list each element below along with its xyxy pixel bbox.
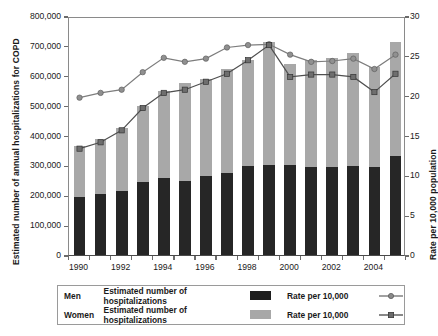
bar-segment-men-2002 bbox=[326, 167, 338, 255]
x-axis-label-2004: 2004 bbox=[364, 262, 383, 272]
bar-2000 bbox=[284, 64, 296, 255]
bar-segment-women-1996 bbox=[200, 79, 212, 175]
bar-2002 bbox=[326, 58, 338, 255]
circle-marker-icon bbox=[378, 291, 404, 301]
y-right-tick-10 bbox=[405, 176, 409, 177]
bar-2004 bbox=[369, 67, 381, 255]
y-left-label-700000: 700,000 bbox=[30, 41, 61, 51]
bar-1993 bbox=[137, 106, 149, 255]
y-left-tick-400000 bbox=[64, 136, 68, 137]
x-axis-label-2000: 2000 bbox=[280, 262, 299, 272]
x-tick-13 bbox=[342, 256, 343, 260]
bar-segment-men-2003 bbox=[347, 166, 359, 255]
plot-area bbox=[68, 17, 405, 256]
bar-segment-men-1996 bbox=[200, 176, 212, 255]
y-left-tick-700000 bbox=[64, 46, 68, 47]
y-left-tick-300000 bbox=[64, 166, 68, 167]
bar-group bbox=[69, 18, 404, 255]
bar-segment-men-1990 bbox=[74, 197, 86, 255]
legend-rate-label-women: Rate per 10,000 bbox=[287, 310, 378, 320]
legend-bar-label-men: Estimated number of hospitalizations bbox=[104, 286, 251, 306]
legend-swatch-women bbox=[250, 310, 271, 319]
x-axis-label-1990: 1990 bbox=[69, 262, 88, 272]
bar-segment-women-2001 bbox=[305, 60, 317, 167]
bar-2001 bbox=[305, 60, 317, 255]
x-tick-1 bbox=[89, 256, 90, 260]
x-tick-10 bbox=[279, 256, 280, 260]
bar-segment-women-1994 bbox=[158, 91, 170, 178]
x-tick-12 bbox=[321, 256, 322, 260]
y-axis-right-title: Rate per 10,000 population bbox=[428, 149, 438, 260]
x-tick-15 bbox=[384, 256, 385, 260]
bar-1995 bbox=[179, 83, 191, 255]
legend-row-women: Women Estimated number of hospitalizatio… bbox=[58, 305, 404, 324]
bar-segment-men-2001 bbox=[305, 167, 317, 255]
legend-rate-label-men: Rate per 10,000 bbox=[287, 291, 378, 301]
y-left-label-600000: 600,000 bbox=[30, 71, 61, 81]
bar-segment-women-1990 bbox=[74, 146, 86, 197]
y-right-label-15: 15 bbox=[410, 131, 420, 141]
bar-segment-women-1995 bbox=[179, 83, 191, 181]
x-tick-16 bbox=[405, 256, 406, 260]
x-axis-label-1992: 1992 bbox=[111, 262, 130, 272]
bar-2003 bbox=[347, 53, 359, 255]
y-left-label-400000: 400,000 bbox=[30, 131, 61, 141]
y-right-label-25: 25 bbox=[410, 51, 420, 61]
x-tick-2 bbox=[110, 256, 111, 260]
x-axis-label-1996: 1996 bbox=[195, 262, 214, 272]
bar-segment-women-1999 bbox=[263, 42, 275, 165]
y-right-tick-15 bbox=[405, 136, 409, 137]
x-tick-7 bbox=[215, 256, 216, 260]
bar-segment-women-1997 bbox=[221, 69, 233, 173]
bar-segment-men-1995 bbox=[179, 181, 191, 255]
y-right-label-30: 30 bbox=[410, 11, 420, 21]
x-tick-3 bbox=[131, 256, 132, 260]
x-tick-8 bbox=[237, 256, 238, 260]
legend-swatch-men bbox=[250, 291, 271, 300]
square-marker-icon bbox=[378, 310, 404, 320]
bar-segment-men-2000 bbox=[284, 165, 296, 255]
x-tick-6 bbox=[194, 256, 195, 260]
x-axis-label-1998: 1998 bbox=[237, 262, 256, 272]
y-right-label-0: 0 bbox=[410, 250, 415, 260]
bar-segment-men-1991 bbox=[95, 194, 107, 255]
y-left-label-0: 0 bbox=[56, 250, 61, 260]
y-right-label-10: 10 bbox=[410, 170, 420, 180]
legend-bar-label-women: Estimated number of hospitalizations bbox=[104, 305, 251, 325]
x-tick-11 bbox=[300, 256, 301, 260]
y-right-tick-30 bbox=[405, 16, 409, 17]
bar-1999 bbox=[263, 42, 275, 255]
x-tick-0 bbox=[68, 256, 69, 260]
y-right-tick-20 bbox=[405, 96, 409, 97]
y-left-tick-800000 bbox=[64, 16, 68, 17]
bar-1990 bbox=[74, 146, 86, 255]
legend-group-women: Women bbox=[58, 310, 104, 320]
x-tick-9 bbox=[258, 256, 259, 260]
y-right-label-5: 5 bbox=[410, 210, 415, 220]
y-left-tick-600000 bbox=[64, 76, 68, 77]
bar-segment-women-2000 bbox=[284, 64, 296, 165]
x-tick-4 bbox=[152, 256, 153, 260]
x-axis-label-1994: 1994 bbox=[153, 262, 172, 272]
bar-segment-men-1994 bbox=[158, 178, 170, 255]
bar-segment-men-2005 bbox=[390, 156, 402, 255]
bar-segment-men-1997 bbox=[221, 173, 233, 255]
x-tick-14 bbox=[363, 256, 364, 260]
bar-segment-men-1993 bbox=[137, 182, 149, 255]
y-left-label-800000: 800,000 bbox=[30, 11, 61, 21]
y-left-tick-200000 bbox=[64, 196, 68, 197]
bar-segment-men-1998 bbox=[242, 166, 254, 255]
bar-segment-men-2004 bbox=[369, 167, 381, 255]
y-right-label-20: 20 bbox=[410, 91, 420, 101]
y-left-label-100000: 100,000 bbox=[30, 220, 61, 230]
bar-segment-women-1992 bbox=[116, 128, 128, 192]
bar-segment-women-1991 bbox=[95, 139, 107, 194]
bar-1997 bbox=[221, 69, 233, 255]
bar-2005 bbox=[390, 42, 402, 255]
legend-group-men: Men bbox=[58, 291, 104, 301]
bar-1994 bbox=[158, 91, 170, 255]
x-axis-label-2002: 2002 bbox=[322, 262, 341, 272]
y-left-tick-100000 bbox=[64, 226, 68, 227]
bar-segment-women-2004 bbox=[369, 67, 381, 166]
